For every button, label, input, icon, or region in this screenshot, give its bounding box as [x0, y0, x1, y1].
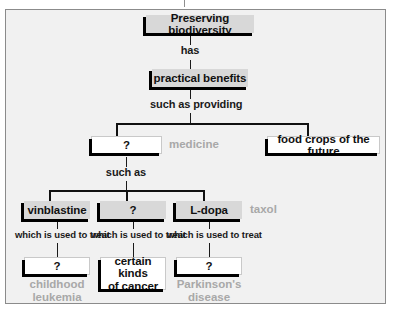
page-tick-mark — [184, 0, 185, 7]
answer-taxol: taxol — [250, 203, 298, 216]
node-l-dopa[interactable]: L-dopa — [176, 201, 242, 219]
node-certain-kinds-of-cancer-label: certain kinds of cancer — [101, 255, 165, 292]
answer-childhood-leukemia: childhood leukemia — [20, 278, 94, 304]
node-drug-blank[interactable]: ? — [100, 201, 166, 219]
answer-parkinsons-disease: Parkinson's disease — [172, 278, 246, 304]
connector-label-which-is-used-to-treat-1: which is used to treat — [15, 229, 99, 240]
connector-such-as-stem — [126, 181, 127, 190]
answer-medicine: medicine — [169, 138, 231, 151]
connector-label-such-as: such as — [102, 166, 150, 178]
page-top-margin — [0, 0, 394, 9]
node-leukemia-blank[interactable]: ? — [24, 257, 90, 275]
node-practical-benefits-label: practical benefits — [154, 72, 247, 84]
connector-treat-1-to-leukemia — [57, 243, 58, 257]
connector-label-has: has — [166, 44, 214, 56]
connector-label-which-is-used-to-treat-3: which is used to treat — [167, 229, 251, 240]
connector-branch-to-medicine — [116, 123, 118, 136]
connector-treat-3-to-parkinsons — [209, 243, 210, 257]
node-parkinsons-blank[interactable]: ? — [176, 257, 242, 275]
node-medicine-blank[interactable]: ? — [91, 136, 162, 154]
connector-label-which-is-used-to-treat-2: which is used to treat — [91, 229, 175, 240]
node-food-crops-of-the-future[interactable]: food crops of the future — [267, 136, 380, 154]
connector-providing-split-bar — [116, 123, 309, 125]
node-preserving-biodiversity-label: Preserving biodiversity — [146, 12, 254, 37]
connector-vinblastine-to-treat — [57, 222, 58, 229]
node-parkinsons-blank-label: ? — [206, 260, 213, 272]
node-vinblastine-label: vinblastine — [28, 204, 87, 216]
connector-branch-to-ldopa — [203, 190, 205, 201]
node-leukemia-blank-label: ? — [54, 260, 61, 272]
concept-map-canvas: Preserving biodiversity has practical be… — [6, 10, 385, 303]
connector-drug-blank-to-treat — [133, 222, 134, 229]
connector-has-to-benefits — [190, 60, 191, 69]
node-certain-kinds-of-cancer[interactable]: certain kinds of cancer — [100, 257, 166, 290]
node-drug-blank-label: ? — [130, 204, 137, 216]
node-vinblastine[interactable]: vinblastine — [24, 201, 90, 219]
node-l-dopa-label: L-dopa — [190, 204, 228, 216]
connector-providing-stem — [190, 113, 191, 123]
node-food-crops-label: food crops of the future — [268, 133, 379, 158]
connector-l-dopa-to-treat — [209, 222, 210, 229]
connector-branch-to-vinblastine — [49, 190, 51, 201]
connector-branch-to-drug-blank — [126, 190, 128, 201]
node-medicine-blank-label: ? — [123, 139, 130, 151]
connector-label-such-as-providing: such as providing — [150, 98, 232, 110]
node-preserving-biodiversity[interactable]: Preserving biodiversity — [146, 15, 254, 33]
concept-map-figure: Preserving biodiversity has practical be… — [5, 9, 386, 304]
node-practical-benefits[interactable]: practical benefits — [152, 69, 248, 87]
